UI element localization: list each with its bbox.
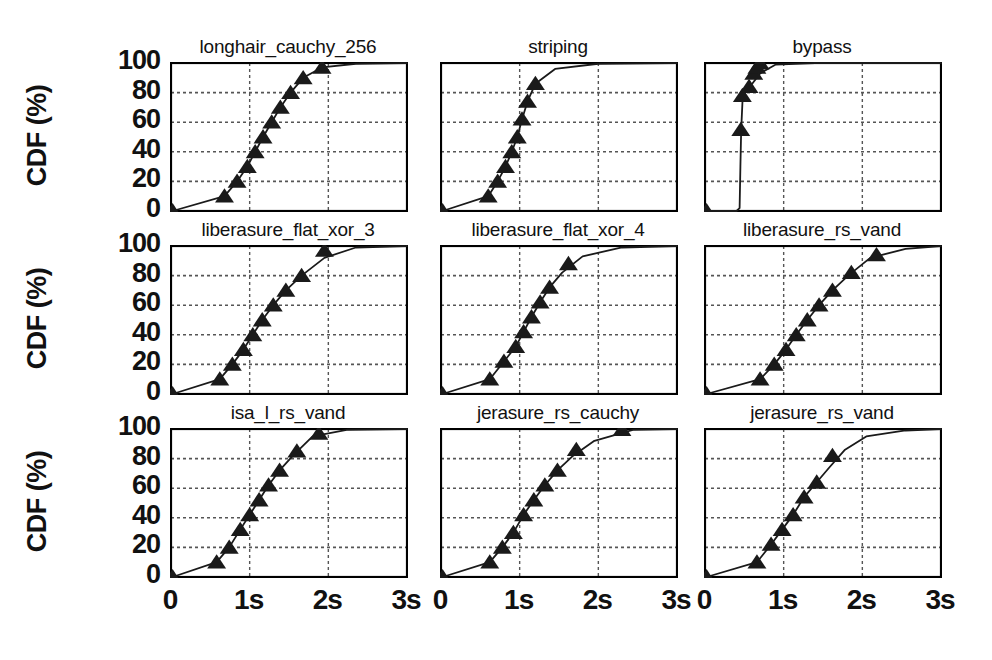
data-point-marker: [271, 99, 290, 113]
cdf-plot-svg: [440, 245, 678, 395]
cdf-panel: [440, 428, 676, 576]
data-point-marker: [514, 507, 533, 521]
axes-frame: [705, 429, 941, 577]
data-point-marker: [253, 312, 272, 326]
y-axis-label: CDF (%): [22, 71, 53, 201]
data-point-marker: [747, 554, 766, 568]
x-tick-label: 1s: [219, 584, 279, 616]
x-tick-label: 2s: [297, 584, 357, 616]
cdf-curve: [173, 429, 407, 577]
data-point-marker: [777, 342, 796, 356]
axes-frame: [171, 246, 407, 394]
data-point-marker: [231, 522, 250, 536]
axes-frame: [705, 246, 941, 394]
cdf-curve: [173, 63, 407, 211]
y-tick-label: 20: [60, 346, 160, 377]
data-point-marker: [494, 354, 513, 368]
data-point-marker: [294, 70, 313, 84]
data-point-marker: [524, 492, 543, 506]
cdf-plot-svg: [170, 245, 408, 395]
data-point-marker: [823, 448, 842, 462]
y-tick-label: 20: [60, 529, 160, 560]
axes-frame: [441, 246, 677, 394]
x-tick-label: 1s: [753, 584, 813, 616]
x-tick-label: 1s: [489, 584, 549, 616]
data-point-marker: [531, 294, 550, 308]
y-tick-label: 60: [60, 470, 160, 501]
cdf-curve: [707, 63, 941, 211]
data-point-marker: [220, 539, 239, 553]
data-point-marker: [540, 280, 559, 294]
data-point-marker: [480, 554, 499, 568]
data-point-marker: [773, 522, 792, 536]
cdf-panel: [170, 428, 406, 576]
cdf-plot-svg: [440, 428, 678, 578]
data-point-marker: [518, 94, 537, 108]
y-tick-label: 20: [60, 163, 160, 194]
cdf-curve: [443, 246, 677, 394]
cdf-panel: [704, 245, 940, 393]
cdf-figure-grid: CDF (%)100806040200CDF (%)100806040200CD…: [0, 0, 992, 660]
panel-title: bypass: [664, 36, 980, 58]
x-tick-label: 0: [410, 584, 470, 616]
data-point-marker: [480, 371, 499, 385]
cdf-plot-svg: [704, 428, 942, 578]
data-point-marker: [798, 312, 817, 326]
cdf-panel: [170, 245, 406, 393]
cdf-curve: [173, 246, 407, 394]
cdf-panel: [440, 62, 676, 210]
axes-frame: [441, 429, 677, 577]
cdf-panel: [704, 428, 940, 576]
data-point-marker: [762, 537, 781, 551]
data-point-marker: [784, 507, 803, 521]
data-point-marker: [243, 327, 262, 341]
data-point-marker: [795, 489, 814, 503]
x-tick-label: 3s: [910, 584, 970, 616]
data-point-marker: [731, 122, 750, 136]
axes-frame: [441, 63, 677, 211]
panel-title: isa_l_rs_vand: [130, 402, 446, 424]
panel-title: jerasure_rs_vand: [664, 402, 980, 424]
y-axis-label: CDF (%): [22, 437, 53, 567]
data-point-marker: [259, 477, 278, 491]
data-point-marker: [215, 188, 234, 202]
cdf-plot-svg: [170, 62, 408, 212]
data-point-marker: [262, 114, 281, 128]
data-point-marker: [240, 507, 259, 521]
y-tick-label: 80: [60, 258, 160, 289]
cdf-curve: [707, 246, 941, 394]
data-point-marker: [513, 111, 532, 125]
axes-frame: [171, 429, 407, 577]
data-point-marker: [502, 144, 521, 158]
data-point-marker: [250, 492, 269, 506]
data-point-marker: [496, 159, 515, 173]
cdf-curve: [443, 429, 677, 577]
cdf-plot-svg: [170, 428, 408, 578]
panel-title: longhair_cauchy_256: [130, 36, 446, 58]
cdf-panel: [170, 62, 406, 210]
y-tick-label: 60: [60, 287, 160, 318]
x-tick-label: 0: [674, 584, 734, 616]
data-point-marker: [270, 463, 289, 477]
y-tick-label: 60: [60, 104, 160, 135]
cdf-curve: [443, 63, 677, 211]
cdf-panel: [704, 62, 940, 210]
data-point-marker: [254, 129, 273, 143]
x-tick-label: 0: [140, 584, 200, 616]
axes-frame: [171, 63, 407, 211]
y-tick-label: 40: [60, 317, 160, 348]
data-point-marker: [508, 129, 527, 143]
y-tick-label: 80: [60, 441, 160, 472]
data-point-marker: [514, 324, 533, 338]
y-tick-label: 80: [60, 75, 160, 106]
y-tick-label: 40: [60, 134, 160, 165]
cdf-curve: [707, 429, 941, 577]
data-point-marker: [479, 188, 498, 202]
data-point-marker: [506, 339, 525, 353]
data-point-marker: [807, 474, 826, 488]
cdf-plot-svg: [704, 62, 942, 212]
y-tick-label: 40: [60, 500, 160, 531]
data-point-marker: [535, 477, 554, 491]
x-tick-label: 2s: [567, 584, 627, 616]
cdf-panel: [440, 245, 676, 393]
